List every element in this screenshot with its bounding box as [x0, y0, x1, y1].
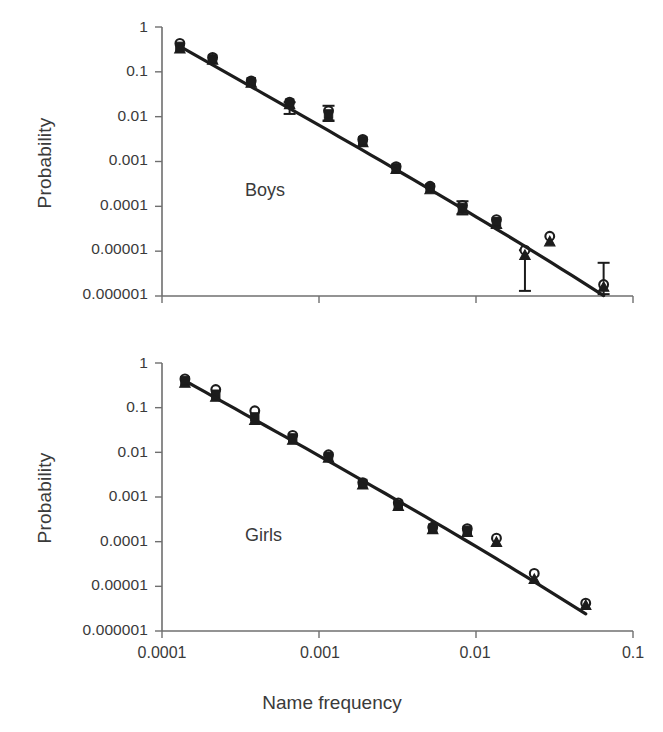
x-axis-label: Name frequency: [232, 692, 432, 714]
x-tick-label: 0.001: [270, 644, 370, 662]
x-tick-label: 0.1: [583, 644, 663, 662]
x-tick-label: 0.01: [425, 644, 525, 662]
x-tick-label: 0.0001: [112, 644, 212, 662]
plot-area-girls: [0, 0, 663, 732]
